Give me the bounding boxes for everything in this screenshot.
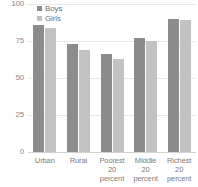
bar-girls-3 xyxy=(146,41,157,152)
y-axis-tick-label: 50 xyxy=(0,74,24,82)
plot-area xyxy=(28,4,196,152)
bar-boys-3 xyxy=(134,38,145,152)
x-axis-label-line: 20 xyxy=(162,165,196,174)
x-axis-label-line: Richest xyxy=(162,156,196,165)
y-axis-tick-label: 0 xyxy=(0,148,24,156)
legend-swatch-girls xyxy=(37,16,42,21)
bar-chart: Boys Girls 0255075100UrbanRuralPoorest20… xyxy=(0,0,198,187)
x-axis-label-line: percent xyxy=(95,174,129,183)
x-axis-label-line: 20 xyxy=(95,165,129,174)
x-axis-label-0: Urban xyxy=(28,156,62,165)
x-axis-label-1: Rural xyxy=(62,156,96,165)
x-axis-label-line: Rural xyxy=(62,156,96,165)
x-axis-line xyxy=(28,152,196,153)
legend-item-boys: Boys xyxy=(37,4,62,13)
x-axis-label-3: Middle20percent xyxy=(129,156,163,183)
legend-item-girls: Girls xyxy=(37,14,62,23)
bar-girls-0 xyxy=(45,28,56,152)
legend-swatch-boys xyxy=(37,6,42,11)
legend-label-boys: Boys xyxy=(45,4,62,13)
x-axis-label-line: percent xyxy=(162,174,196,183)
bar-boys-0 xyxy=(33,25,44,152)
bar-girls-4 xyxy=(180,20,191,152)
x-axis-label-line: 20 xyxy=(129,165,163,174)
bar-boys-1 xyxy=(67,44,78,152)
bar-boys-2 xyxy=(101,54,112,152)
x-axis-label-line: percent xyxy=(129,174,163,183)
x-axis-label-line: Middle xyxy=(129,156,163,165)
legend-label-girls: Girls xyxy=(45,14,61,23)
y-axis-tick-label: 75 xyxy=(0,37,24,45)
x-axis-label-4: Richest20percent xyxy=(162,156,196,183)
y-axis-tick-label: 25 xyxy=(0,111,24,119)
bar-girls-1 xyxy=(79,50,90,152)
x-axis-label-2: Poorest20percent xyxy=(95,156,129,183)
legend: Boys Girls xyxy=(37,4,62,24)
x-axis-label-line: Poorest xyxy=(95,156,129,165)
x-axis-label-line: Urban xyxy=(28,156,62,165)
y-axis-tick-label: 100 xyxy=(0,0,24,8)
bar-boys-4 xyxy=(168,19,179,152)
bar-girls-2 xyxy=(113,59,124,152)
